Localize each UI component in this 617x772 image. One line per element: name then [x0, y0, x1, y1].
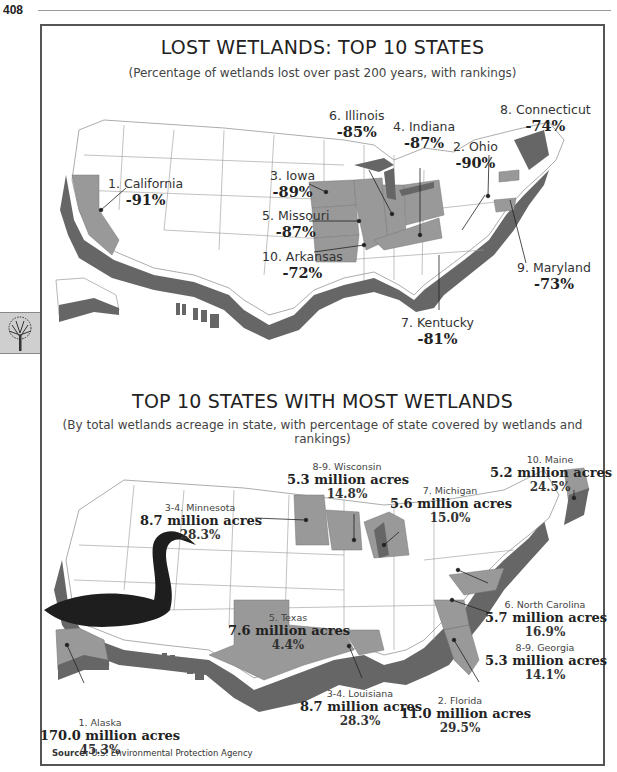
- label-maryland: 9. Maryland-73%: [517, 260, 591, 292]
- label-kentucky: 7. Kentucky-81%: [401, 315, 474, 347]
- label-connecticut: 8. Connecticut-74%: [500, 102, 591, 134]
- map2-title: TOP 10 STATES WITH MOST WETLANDS: [40, 390, 605, 412]
- label-texas: 5. Texas7.6 million acres4.4%: [228, 612, 348, 652]
- label-california: 1. California-91%: [108, 176, 183, 208]
- state-georgia: [434, 600, 469, 630]
- state-wisconsin: [326, 510, 362, 550]
- label-ohio: 2. Ohio-90%: [453, 139, 498, 171]
- state-connecticut: [499, 170, 519, 182]
- source-note: Source: U.S. Environmental Protection Ag…: [52, 748, 253, 758]
- label-iowa: 3. Iowa-89%: [270, 168, 315, 200]
- tree-tab: [0, 312, 40, 354]
- label-missouri: 5. Missouri-87%: [262, 208, 329, 240]
- tree-icon: [0, 313, 40, 353]
- label-louisiana: 3-4. Louisiana8.7 million acres28.3%: [300, 688, 420, 728]
- state-iowa: [309, 180, 356, 208]
- label-minnesota: 3-4. Minnesota8.7 million acres28.3%: [140, 502, 260, 542]
- label-illinois: 6. Illinois-85%: [329, 108, 385, 140]
- source-label: Source:: [52, 748, 88, 758]
- label-indiana: 4. Indiana-87%: [393, 119, 455, 151]
- header-rule: [38, 10, 611, 11]
- label-georgia: 8-9. Georgia5.3 million acres14.1%: [485, 642, 605, 682]
- map2-subtitle: (By total wetlands acreage in state, wit…: [40, 418, 605, 446]
- map1-title: LOST WETLANDS: TOP 10 STATES: [40, 36, 605, 58]
- label-arkansas: 10. Arkansas-72%: [262, 249, 343, 281]
- map1-subtitle: (Percentage of wetlands lost over past 2…: [40, 66, 605, 80]
- label-wisconsin: 8-9. Wisconsin5.3 million acres14.8%: [287, 461, 407, 501]
- label-north-carolina: 6. North Carolina5.7 million acres16.9%: [485, 599, 605, 639]
- source-text: U.S. Environmental Protection Agency: [91, 748, 253, 758]
- page-number: 408: [3, 3, 23, 17]
- label-maine: 10. Maine5.2 million acres24.5%: [490, 454, 610, 494]
